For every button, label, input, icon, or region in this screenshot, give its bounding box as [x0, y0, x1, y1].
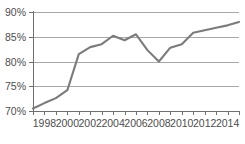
x-tick-label-2010: 2010 [170, 117, 194, 129]
line-chart: 70%75%80%85%90% 199820002002200420062008… [0, 0, 245, 144]
y-tick-label-80: 80% [5, 56, 26, 68]
x-tick-label-2002: 2002 [79, 117, 103, 129]
x-tick-labels-group: 199820002002200420062008201020122014 [33, 117, 240, 129]
y-tick-label-75: 75% [5, 80, 26, 92]
y-tick-label-90: 90% [5, 6, 26, 18]
x-tick-label-2004: 2004 [101, 117, 125, 129]
y-tick-label-70: 70% [5, 105, 26, 117]
chart-canvas: 70%75%80%85%90% 199820002002200420062008… [0, 0, 245, 144]
x-tick-label-2014: 2014 [216, 117, 240, 129]
x-tick-label-2012: 2012 [193, 117, 217, 129]
x-tick-label-2006: 2006 [124, 117, 148, 129]
x-tick-label-1998: 1998 [33, 117, 57, 129]
x-tick-label-2008: 2008 [147, 117, 171, 129]
y-tick-label-85: 85% [5, 31, 26, 43]
x-tick-label-2000: 2000 [56, 117, 80, 129]
